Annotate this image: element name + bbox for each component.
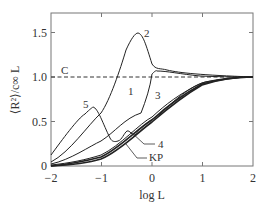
- svg-text:1.5: 1.5: [32, 26, 47, 40]
- svg-text:0: 0: [41, 159, 47, 173]
- label-2: 2: [144, 27, 150, 39]
- series-lines: [51, 33, 253, 166]
- svg-text:2: 2: [250, 171, 256, 185]
- svg-text:−1: −1: [95, 171, 108, 185]
- y-axis-label: ⟨R²⟩/c∞ L: [8, 66, 22, 115]
- svg-text:0: 0: [149, 171, 155, 185]
- x-tick-labels: −2 −1 0 1 2: [45, 171, 256, 185]
- svg-text:1.0: 1.0: [32, 70, 47, 84]
- label-c: C: [61, 64, 68, 76]
- series-labels: C 1 2 3 4 5 KP: [61, 27, 164, 163]
- svg-text:0.5: 0.5: [32, 115, 47, 129]
- series-2-line: [51, 33, 253, 162]
- label-1: 1: [128, 85, 134, 97]
- x-axis-label: log L: [139, 188, 165, 202]
- label-5: 5: [83, 98, 89, 110]
- y-tick-labels: 0 0.5 1.0 1.5: [32, 26, 47, 174]
- label-3: 3: [155, 89, 161, 101]
- series-5-line: [51, 77, 253, 155]
- label-kp: KP: [149, 151, 163, 163]
- chart: −2 −1 0 1 2 0 0.5 1.0 1.5 log L ⟨R²⟩/c∞ …: [0, 0, 268, 209]
- svg-text:−2: −2: [45, 171, 58, 185]
- plot-frame: [51, 13, 253, 166]
- svg-text:1: 1: [200, 171, 206, 185]
- label-4: 4: [158, 138, 164, 150]
- axis-ticks: [51, 13, 253, 166]
